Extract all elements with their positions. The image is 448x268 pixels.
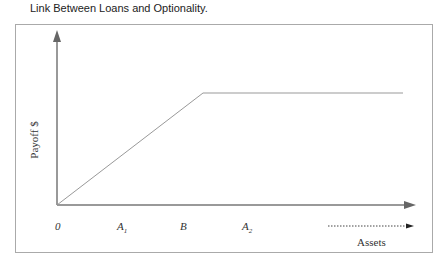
x-axis-arrow-icon [404,201,416,209]
y-axis-label: Payoff $ [28,121,40,159]
tick-a2: A2 [241,220,253,235]
payoff-line [57,93,403,205]
y-axis-arrow-icon [53,30,61,42]
assets-arrow-icon [406,224,414,229]
tick-b: B [180,220,187,232]
tick-0: 0 [55,220,61,232]
payoff-diagram: Payoff $ 0 A1 B A2 Assets [0,0,448,268]
tick-a1: A1 [116,220,127,235]
x-axis-label: Assets [357,236,386,248]
